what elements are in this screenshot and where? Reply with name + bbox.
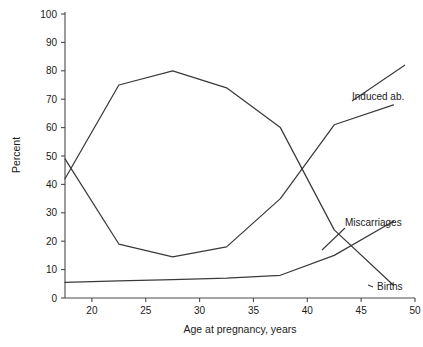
series-label-miscarriages: Miscarriages (345, 217, 402, 228)
y-tick-label: 20 (46, 236, 58, 247)
x-tick-label: 25 (140, 305, 152, 316)
x-tick-label: 45 (356, 305, 368, 316)
x-tick-label: 30 (194, 305, 206, 316)
y-axis-title: Percent (10, 137, 22, 173)
x-tick-label: 50 (409, 305, 421, 316)
series-label-induced-ab: Induced ab. (352, 91, 404, 102)
series-line-induced-ab (65, 105, 393, 257)
series-label-births: Births (377, 281, 403, 292)
series-line-births (65, 71, 393, 285)
line-chart: 0102030405060708090100 20253035404550 Pe… (0, 0, 423, 347)
y-tick-label: 50 (46, 151, 58, 162)
y-axis-ticks (61, 14, 65, 298)
x-axis-tick-labels: 20253035404550 (86, 305, 421, 316)
y-tick-label: 40 (46, 179, 58, 190)
y-tick-label: 80 (46, 65, 58, 76)
y-tick-label: 100 (40, 9, 57, 20)
x-tick-label: 20 (86, 305, 98, 316)
series-lines (65, 71, 393, 285)
x-tick-label: 35 (248, 305, 260, 316)
miscarriages-leader-line (322, 228, 345, 250)
y-tick-label: 70 (46, 94, 58, 105)
series-line-miscarriages (65, 221, 393, 282)
x-axis-ticks (92, 298, 415, 302)
chart-container: 0102030405060708090100 20253035404550 Pe… (0, 0, 423, 347)
x-tick-label: 40 (302, 305, 314, 316)
x-axis-title: Age at pregnancy, years (183, 323, 296, 335)
births-leader-line (368, 285, 373, 287)
y-tick-label: 10 (46, 264, 58, 275)
y-tick-label: 60 (46, 122, 58, 133)
y-tick-label: 0 (51, 293, 57, 304)
y-tick-label: 30 (46, 207, 58, 218)
y-axis-tick-labels: 0102030405060708090100 (40, 9, 57, 304)
y-tick-label: 90 (46, 37, 58, 48)
